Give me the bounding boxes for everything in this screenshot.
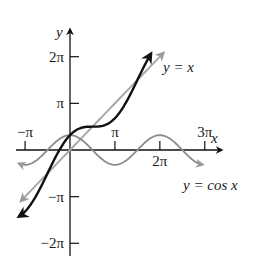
x-tick-label: −π [17, 124, 33, 140]
graph: −ππ2π3π2ππ−π−2π y x y = x y = cos x [0, 0, 267, 258]
y-tick-label: π [56, 95, 64, 111]
y-axis-label: y [54, 24, 63, 40]
y-tick-label: −2π [40, 235, 64, 251]
y-tick-label: 2π [49, 49, 65, 65]
x-tick-label: 2π [152, 153, 168, 169]
cos-annotation: y = cos x [181, 177, 238, 193]
y-tick-label: −π [48, 189, 64, 205]
line-annotation: y = x [161, 59, 194, 75]
x-tick-label: π [111, 124, 119, 140]
x-axis-label: x [210, 130, 218, 146]
